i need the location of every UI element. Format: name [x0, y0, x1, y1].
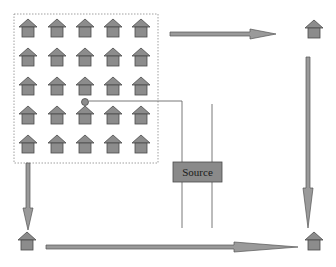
- house-grid: [19, 19, 150, 153]
- arrow-right-icon: [46, 242, 298, 252]
- house-icon: [104, 106, 122, 124]
- house-icon: [48, 77, 66, 95]
- house-icon: [19, 77, 37, 95]
- house-icon: [48, 106, 66, 124]
- house-icon: [104, 48, 122, 66]
- connection-node-icon: [82, 99, 89, 106]
- house-icon: [48, 135, 66, 153]
- house-icon: [19, 106, 37, 124]
- house-icon-bottom-right: [305, 232, 323, 250]
- house-icon: [48, 19, 66, 37]
- house-icon: [76, 77, 94, 95]
- house-icon: [76, 106, 94, 124]
- house-icon: [19, 19, 37, 37]
- house-icon: [48, 48, 66, 66]
- house-icon: [132, 48, 150, 66]
- source-box: Source: [173, 162, 222, 182]
- house-icon-bottom-left: [18, 232, 36, 250]
- source-label: Source: [182, 166, 213, 178]
- house-icon: [104, 77, 122, 95]
- house-icon: [132, 77, 150, 95]
- house-icon: [104, 19, 122, 37]
- house-icon: [76, 48, 94, 66]
- house-icon: [132, 106, 150, 124]
- arrow-down-icon: [23, 163, 33, 230]
- house-icon: [19, 48, 37, 66]
- house-icon: [76, 19, 94, 37]
- house-icon: [132, 19, 150, 37]
- house-icon: [132, 135, 150, 153]
- arrow-down-icon: [303, 57, 313, 228]
- arrow-right-icon: [170, 29, 276, 39]
- house-icon: [19, 135, 37, 153]
- house-icon-top-right: [305, 20, 323, 38]
- house-icon: [104, 135, 122, 153]
- house-icon: [76, 135, 94, 153]
- diagram-canvas: Source: [0, 0, 336, 267]
